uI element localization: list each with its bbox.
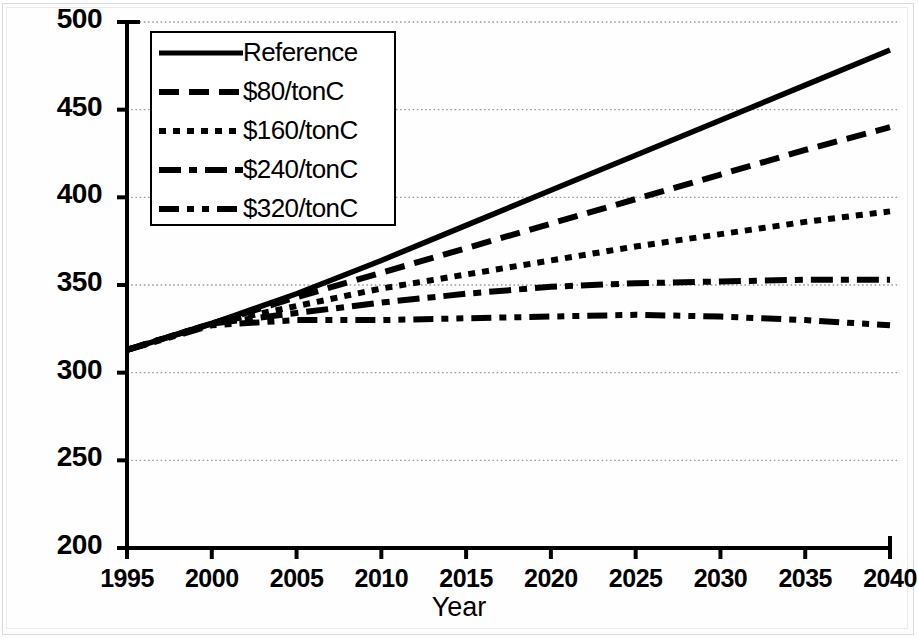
- x-axis-title: Year: [0, 592, 918, 623]
- chart-figure: 200250300350400450500 199520002005201020…: [0, 0, 918, 638]
- legend-line-swatch: [157, 160, 245, 180]
- legend-item: $80/tonC: [152, 72, 394, 111]
- x-axis-tick-label: 2040: [845, 564, 918, 593]
- x-axis-tick-label: 2015: [421, 564, 511, 593]
- line-chart-plot: [0, 0, 918, 638]
- y-axis-tick-label: 200: [22, 529, 102, 561]
- chart-legend: Reference$80/tonC$160/tonC$240/tonC$320/…: [150, 31, 396, 226]
- y-axis-tick-label: 400: [22, 178, 102, 210]
- legend-line-swatch: [157, 121, 245, 141]
- legend-item-label: $80/tonC: [243, 76, 344, 107]
- legend-line-swatch: [157, 199, 245, 219]
- x-axis-tick-label: 2020: [506, 564, 596, 593]
- y-axis-tick-label: 450: [22, 91, 102, 123]
- legend-line-swatch: [157, 82, 245, 102]
- legend-item: $160/tonC: [152, 111, 394, 150]
- y-axis-tick-label: 300: [22, 354, 102, 386]
- y-axis-tick-label: 350: [22, 266, 102, 298]
- legend-item: $240/tonC: [152, 150, 394, 189]
- x-axis-tick-label: 2005: [252, 564, 342, 593]
- x-axis-tick-label: 2000: [167, 564, 257, 593]
- y-axis-tick-label: 250: [22, 441, 102, 473]
- y-axis-tick-label: 500: [22, 3, 102, 35]
- legend-line-swatch: [157, 43, 245, 63]
- legend-item-label: $160/tonC: [243, 115, 358, 146]
- x-axis-tick-label: 2035: [760, 564, 850, 593]
- x-axis-tick-label: 1995: [82, 564, 172, 593]
- legend-item: $320/tonC: [152, 189, 394, 228]
- legend-item: Reference: [152, 33, 394, 72]
- x-axis-tick-label: 2030: [675, 564, 765, 593]
- x-axis-tick-label: 2025: [591, 564, 681, 593]
- x-axis-tick-label: 2010: [336, 564, 426, 593]
- legend-item-label: Reference: [243, 37, 358, 68]
- legend-item-label: $320/tonC: [243, 193, 358, 224]
- legend-item-label: $240/tonC: [243, 154, 358, 185]
